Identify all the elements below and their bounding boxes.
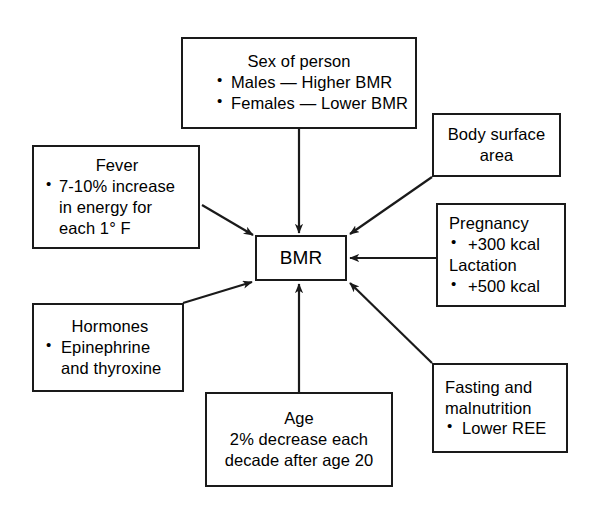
node-pregnancy-title: Pregnancy [449,213,558,234]
node-sex-title: Sex of person [193,51,405,72]
node-body-surface-line-1: Body surface [440,124,553,145]
node-bmr-center: BMR [255,235,347,281]
list-item: Males — Higher BMR [215,72,405,93]
list-item: Lower REE [445,418,560,439]
node-age-line-1: 2% decrease each [213,429,385,450]
node-pregnancy-lactation: Pregnancy +300 kcal Lactation +500 kcal [436,203,566,307]
node-hormones-title: Hormones [44,316,176,337]
node-fever: Fever 7-10% increase in energy for each … [32,145,200,249]
arrow-fasting-to-bmr [350,283,432,363]
node-lactation-title: Lactation [449,255,558,276]
node-body-surface-line-2: area [440,145,553,166]
list-item: Females — Lower BMR [215,93,405,114]
node-sex-of-person: Sex of person Males — Higher BMR Females… [181,37,417,129]
node-fasting-malnutrition: Fasting and malnutrition Lower REE [432,363,568,453]
node-age: Age 2% decrease each decade after age 20 [205,392,393,487]
list-item: +300 kcal [449,234,558,255]
node-fever-items: 7-10% increase in energy for each 1° F [44,176,190,238]
node-pregnancy-items: +300 kcal [449,234,558,255]
node-age-title: Age [213,408,385,429]
node-sex-items: Males — Higher BMR Females — Lower BMR [215,72,405,114]
node-fasting-title-line-2: malnutrition [445,398,560,419]
bmr-factors-diagram: Sex of person Males — Higher BMR Females… [0,0,592,509]
node-fasting-items: Lower REE [445,418,560,439]
node-lactation-items: +500 kcal [449,276,558,297]
node-hormones-items: Epinephrine and thyroxine [44,337,176,379]
node-body-surface-area: Body surface area [432,113,561,177]
list-item: Epinephrine and thyroxine [44,337,176,379]
list-item-line-2: and thyroxine [61,359,161,377]
node-hormones: Hormones Epinephrine and thyroxine [32,303,184,392]
arrow-hormones-to-bmr [183,282,252,303]
node-fever-title: Fever [44,155,190,176]
arrow-body-surface-to-bmr [350,177,432,234]
list-item-line-1: Epinephrine [61,338,150,356]
list-item: +500 kcal [449,276,558,297]
arrow-fever-to-bmr [202,205,253,235]
list-item: 7-10% increase in energy for each 1° F [44,176,190,238]
node-bmr-label: BMR [280,246,323,270]
node-age-line-2: decade after age 20 [213,450,385,471]
node-fasting-title-line-1: Fasting and [445,377,560,398]
